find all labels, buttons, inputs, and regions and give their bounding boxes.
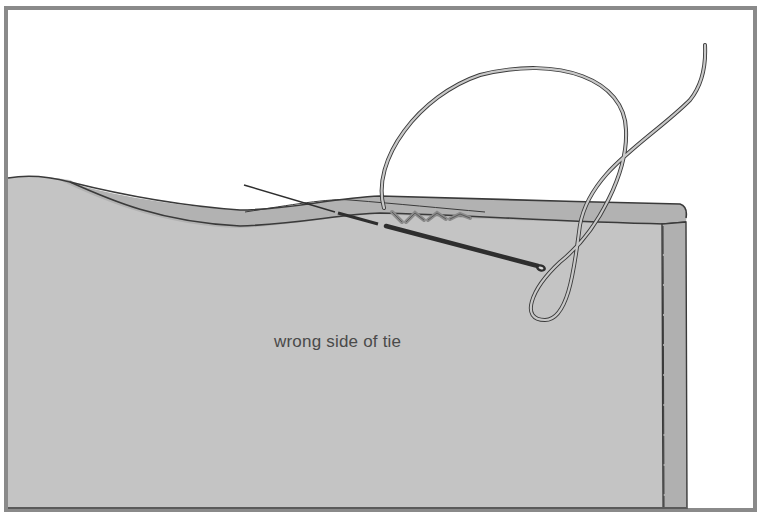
right-hem [662, 222, 687, 508]
illustration: wrong side of tie [0, 0, 761, 514]
fabric-side-label: wrong side of tie [274, 332, 401, 352]
illustration-canvas [0, 0, 761, 514]
